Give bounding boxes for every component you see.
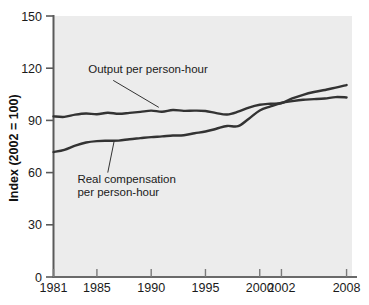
x-tick-label: 2008 — [333, 281, 361, 295]
annotation-compensation-label: Real compensation — [77, 173, 175, 185]
annotation-output-label: Output per person-hour — [88, 63, 208, 75]
y-tick-label: 120 — [21, 62, 42, 76]
line-chart: 0306090120150 19811985199019952000200220… — [0, 0, 369, 305]
annotation-compensation-label: per person-hour — [77, 186, 159, 198]
y-tick-label: 30 — [28, 218, 42, 232]
x-tick-label: 2002 — [268, 281, 296, 295]
x-tick-label: 1990 — [137, 281, 165, 295]
plot-background — [53, 16, 352, 277]
y-tick-label: 60 — [28, 166, 42, 180]
y-axis-title: Index (2002 = 100) — [7, 94, 21, 201]
y-tick-group: 0306090120150 — [21, 10, 53, 285]
chart-figure: 0306090120150 19811985199019952000200220… — [0, 0, 369, 305]
y-tick-label: 90 — [28, 114, 42, 128]
x-tick-label: 1985 — [83, 281, 111, 295]
x-tick-label: 1995 — [192, 281, 220, 295]
y-tick-label: 150 — [21, 10, 42, 24]
x-tick-label: 1981 — [40, 281, 68, 295]
